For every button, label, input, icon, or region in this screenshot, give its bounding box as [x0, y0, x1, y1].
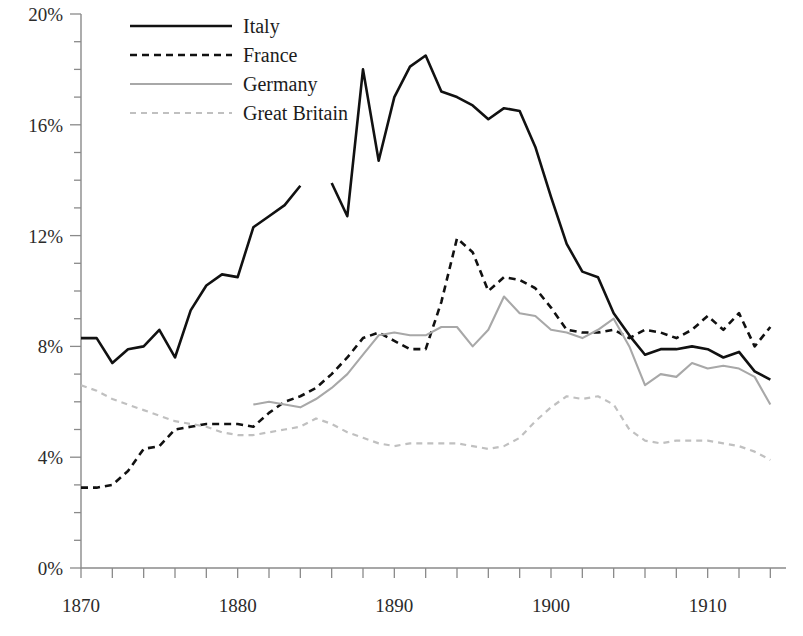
- series-line-great-britain: [81, 385, 770, 460]
- y-axis-ticks: [70, 14, 81, 568]
- y-axis-label: 8%: [38, 336, 64, 357]
- legend-label-france: France: [243, 44, 298, 66]
- series-line-germany: [253, 297, 770, 408]
- series-line-italy: [332, 56, 771, 380]
- chart-container: 20%16%12%8%4%0% 18701880189019001910 Ita…: [0, 0, 803, 636]
- x-axis-tick-labels: 18701880189019001910: [62, 595, 727, 616]
- chart-legend: ItalyFranceGermanyGreat Britain: [130, 15, 348, 124]
- legend-label-great-britain: Great Britain: [243, 102, 348, 124]
- series-line-italy: [81, 186, 300, 363]
- x-axis-label: 1910: [689, 595, 727, 616]
- axis-lines: [81, 14, 786, 568]
- legend-label-italy: Italy: [243, 15, 280, 38]
- legend-label-germany: Germany: [243, 73, 317, 96]
- y-axis-tick-labels: 20%16%12%8%4%0%: [28, 4, 63, 579]
- axes: [81, 14, 786, 568]
- x-axis-label: 1870: [62, 595, 100, 616]
- line-chart: 20%16%12%8%4%0% 18701880189019001910 Ita…: [0, 0, 803, 636]
- series-line-france: [81, 238, 770, 487]
- x-axis-label: 1890: [375, 595, 413, 616]
- y-axis-label: 16%: [28, 115, 63, 136]
- x-axis-ticks: [81, 568, 770, 578]
- y-axis-label: 4%: [38, 447, 64, 468]
- y-axis-label: 12%: [28, 226, 63, 247]
- y-axis-label: 0%: [38, 558, 64, 579]
- y-axis-label: 20%: [28, 4, 63, 25]
- data-series: [81, 56, 770, 488]
- x-axis-label: 1880: [219, 595, 257, 616]
- x-axis-label: 1900: [532, 595, 570, 616]
